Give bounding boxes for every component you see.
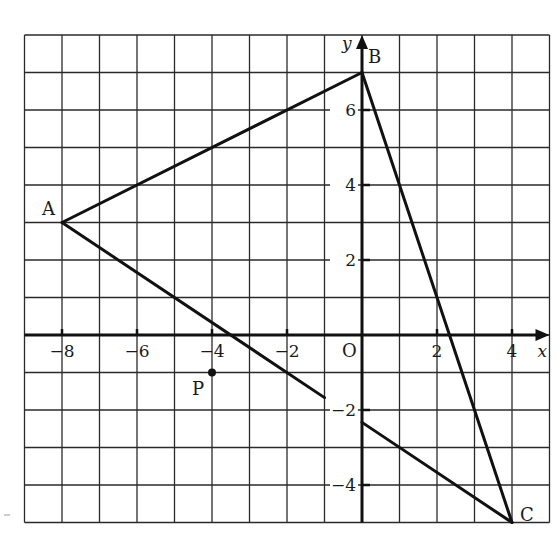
x-tick-label: 2 <box>432 341 443 361</box>
y-tick-label: −4 <box>331 475 356 495</box>
x-tick-label: 4 <box>507 341 518 361</box>
y-tick-label: 6 <box>345 100 356 120</box>
origin-label: O <box>342 340 357 361</box>
y-tick-label: 2 <box>345 250 356 270</box>
point-label-b: B <box>368 46 381 67</box>
labels: xyOABCP <box>4 33 548 525</box>
y-axis-arrow-icon <box>356 35 368 49</box>
x-tick-label: −8 <box>49 341 74 361</box>
point-p-dot <box>208 369 216 377</box>
grid <box>25 35 550 523</box>
segment <box>62 223 325 398</box>
x-tick-label: −6 <box>124 341 149 361</box>
point-label-a: A <box>41 198 56 219</box>
y-tick-label: −2 <box>331 400 356 420</box>
x-axis-arrow-icon <box>536 329 550 341</box>
point-label-p: P <box>192 378 204 399</box>
point-label-c: C <box>520 504 534 525</box>
coordinate-diagram: −8−6−4−224642−2−4 xyOABCP <box>0 0 556 539</box>
x-tick-label: −4 <box>199 341 224 361</box>
x-tick-label: −2 <box>274 341 299 361</box>
y-axis-label: y <box>341 33 352 53</box>
x-axis-label: x <box>538 341 548 361</box>
y-tick-label: 4 <box>345 175 356 195</box>
